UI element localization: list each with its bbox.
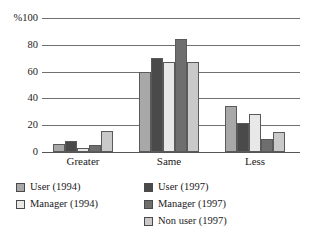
bar — [151, 58, 163, 152]
legend-swatch-icon — [144, 183, 153, 192]
legend-swatch-icon — [144, 200, 153, 209]
legend-swatch-icon — [16, 183, 25, 192]
legend-item: User (1997) — [144, 181, 208, 193]
legend-item: Non user (1997) — [144, 215, 227, 227]
bar — [163, 62, 175, 152]
bar — [89, 145, 101, 152]
bars-layer — [42, 18, 300, 152]
x-tick-label-less: Less — [210, 155, 300, 167]
legend-label: Manager (1997) — [158, 198, 226, 210]
bar — [139, 72, 151, 152]
legend-item: Manager (1997) — [144, 198, 226, 210]
y-tick-label-40: 40 — [0, 93, 38, 103]
legend-label: User (1994) — [30, 181, 80, 193]
x-tick-label-greater: Greater — [38, 155, 128, 167]
bar — [77, 148, 89, 152]
plot-area — [42, 18, 300, 152]
bar-chart-figure: 020406080%100 GreaterSameLess User (1994… — [0, 0, 310, 236]
bar-group-greater — [40, 18, 126, 152]
y-tick-label-80: 80 — [0, 40, 38, 50]
legend-swatch-icon — [144, 217, 153, 226]
y-tick-label-100: %100 — [0, 13, 38, 23]
y-tick-label-0: 0 — [0, 147, 38, 157]
bar — [273, 132, 285, 152]
bar — [225, 106, 237, 152]
bar — [261, 139, 273, 152]
bar — [175, 39, 187, 152]
legend-label: User (1997) — [158, 181, 208, 193]
legend-swatch-icon — [16, 200, 25, 209]
legend-label: Non user (1997) — [158, 215, 227, 227]
bar — [249, 114, 261, 152]
bar — [65, 141, 77, 152]
x-tick-label-same: Same — [124, 155, 214, 167]
bar — [187, 62, 199, 152]
bar — [101, 131, 113, 152]
bar — [237, 123, 249, 152]
bar — [53, 144, 65, 152]
bar-group-less — [212, 18, 298, 152]
legend-item: Manager (1994) — [16, 198, 98, 210]
legend-label: Manager (1994) — [30, 198, 98, 210]
legend-item: User (1994) — [16, 181, 80, 193]
bar-group-same — [126, 18, 212, 152]
y-tick-label-20: 20 — [0, 120, 38, 130]
y-tick-label-60: 60 — [0, 67, 38, 77]
gridline-0 — [42, 152, 300, 153]
chart-legend: User (1994)Manager (1994)User (1997)Mana… — [16, 181, 301, 233]
